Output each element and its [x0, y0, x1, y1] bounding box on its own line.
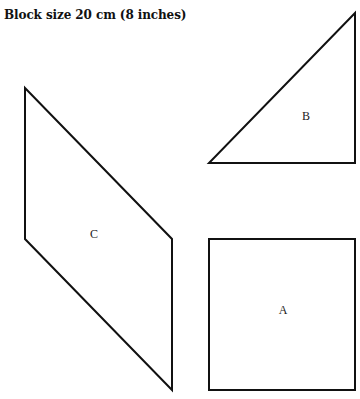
label-c: C: [90, 227, 98, 241]
pattern-diagram: A B C: [0, 0, 360, 399]
triangle-piece-b: [209, 13, 355, 163]
parallelogram-piece-c: [25, 88, 172, 390]
label-b: B: [302, 109, 310, 123]
label-a: A: [279, 303, 288, 317]
